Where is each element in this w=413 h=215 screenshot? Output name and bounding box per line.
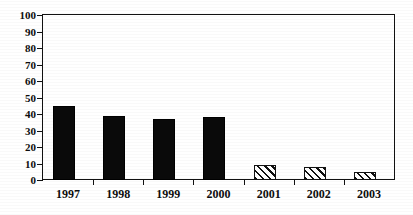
y-axis: 0102030405060708090100 <box>0 0 42 195</box>
y-tick-label-30: 30 <box>25 126 36 136</box>
plot-area <box>43 15 394 180</box>
y-tick-label-40: 40 <box>25 109 36 119</box>
y-tick-label-20: 20 <box>25 142 36 152</box>
y-tick-label-80: 80 <box>25 43 36 53</box>
bar-1999 <box>153 119 175 180</box>
x-tick-label-2003: 2003 <box>345 187 393 202</box>
bar-2003 <box>354 172 376 180</box>
bar-2002 <box>304 167 326 180</box>
x-tick-label-1997: 1997 <box>44 187 92 202</box>
bar-1997 <box>53 106 75 180</box>
y-tick-label-100: 100 <box>20 10 37 20</box>
bar-2000 <box>203 117 225 180</box>
x-tick-label-2002: 2002 <box>295 187 343 202</box>
y-tick-label-60: 60 <box>25 76 36 86</box>
bar-1998 <box>103 116 125 180</box>
y-tick-label-50: 50 <box>25 93 36 103</box>
x-tick-label-1998: 1998 <box>94 187 142 202</box>
x-axis: 1997199819992000200120022003 <box>0 185 413 211</box>
y-tick-label-70: 70 <box>25 60 36 70</box>
y-tick-label-90: 90 <box>25 27 36 37</box>
y-tick-label-0: 0 <box>31 175 37 185</box>
x-tick-label-1999: 1999 <box>144 187 192 202</box>
y-tick-label-10: 10 <box>25 159 36 169</box>
bar-chart: 0102030405060708090100 19971998199920002… <box>0 0 413 215</box>
x-tick-label-2000: 2000 <box>195 187 243 202</box>
x-tick-label-2001: 2001 <box>245 187 293 202</box>
bar-2001 <box>254 165 276 180</box>
